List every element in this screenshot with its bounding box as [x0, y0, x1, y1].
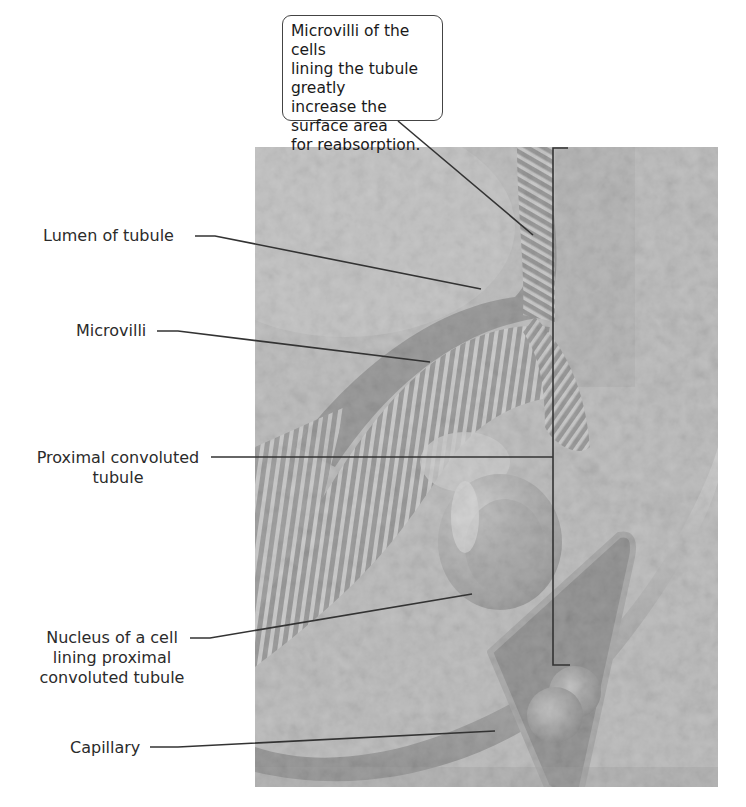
label-nucleus-line-2: lining proximal — [32, 648, 192, 668]
label-nucleus-line-1: Nucleus of a cell — [32, 628, 192, 648]
label-lumen-of-tubule: Lumen of tubule — [43, 226, 174, 246]
callout-line-1: Microvilli of the cells — [291, 22, 434, 60]
callout-line-3: increase the surface area — [291, 98, 434, 136]
label-proximal-line-2: tubule — [28, 468, 208, 488]
callout-line-2: lining the tubule greatly — [291, 60, 434, 98]
micrograph-illustration — [255, 147, 718, 787]
callout-box: Microvilli of the cells lining the tubul… — [282, 15, 443, 121]
label-proximal-convoluted-tubule: Proximal convoluted tubule — [28, 448, 208, 488]
label-nucleus-line-3: convoluted tubule — [32, 668, 192, 688]
label-capillary: Capillary — [70, 738, 140, 758]
label-microvilli: Microvilli — [76, 321, 146, 341]
callout-line-4: for reabsorption. — [291, 136, 434, 155]
label-nucleus: Nucleus of a cell lining proximal convol… — [32, 628, 192, 688]
micrograph-image — [255, 147, 718, 787]
label-proximal-line-1: Proximal convoluted — [28, 448, 208, 468]
